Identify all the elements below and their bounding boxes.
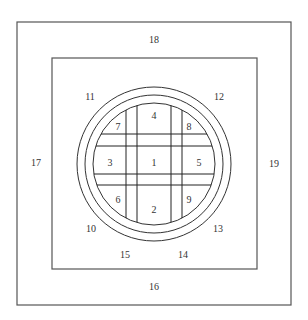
- label-zone-18: 18: [149, 34, 159, 45]
- label-zone-16: 16: [149, 281, 159, 292]
- label-zone-13: 13: [213, 223, 223, 234]
- label-zone-6: 6: [116, 194, 121, 205]
- label-zone-12: 12: [214, 91, 224, 102]
- label-zone-1: 1: [152, 157, 157, 168]
- label-zone-9: 9: [187, 194, 192, 205]
- label-zone-11: 11: [85, 91, 95, 102]
- zone-diagram: 1 2 3 4 5 6 7 8 9 10 11 12 13 14 15 16 1…: [0, 0, 308, 320]
- label-zone-10: 10: [86, 223, 96, 234]
- label-zone-5: 5: [197, 157, 202, 168]
- label-zone-4: 4: [152, 110, 157, 121]
- label-zone-17: 17: [31, 157, 41, 168]
- label-zone-8: 8: [187, 121, 192, 132]
- label-zone-3: 3: [108, 157, 113, 168]
- label-zone-7: 7: [116, 121, 121, 132]
- label-zone-14: 14: [178, 249, 188, 260]
- label-zone-2: 2: [152, 204, 157, 215]
- label-zone-15: 15: [120, 249, 130, 260]
- label-zone-19: 19: [269, 158, 279, 169]
